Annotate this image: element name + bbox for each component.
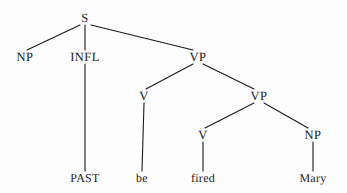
tree-edge-vp1-to-v1: [146, 64, 193, 89]
tree-node-v2: V: [198, 129, 207, 142]
tree-terminal-be: be: [136, 172, 148, 184]
tree-edge-v1-to-be: [142, 103, 144, 171]
tree-edge-vp1-to-vp2: [203, 64, 254, 89]
tree-terminal-mary: Mary: [299, 172, 326, 184]
syntax-tree-diagram: SNPINFLVPVVPVNPPASTbefiredMary: [0, 0, 347, 193]
tree-node-s: S: [81, 12, 88, 25]
tree-edge-s-to-np1: [27, 25, 80, 50]
tree-edge-s-to-vp1: [91, 25, 193, 50]
tree-edge-vp2-to-v2: [205, 103, 254, 128]
tree-terminal-fired: fired: [191, 172, 215, 184]
tree-terminal-past: PAST: [70, 172, 99, 184]
tree-node-infl: INFL: [70, 51, 99, 64]
tree-node-v1: V: [139, 90, 148, 103]
tree-node-vp2: VP: [251, 90, 268, 103]
tree-node-np2: NP: [305, 129, 322, 142]
tree-edge-layer: [0, 0, 347, 193]
tree-node-np1: NP: [17, 51, 34, 64]
tree-edge-vp2-to-np2: [264, 103, 308, 128]
tree-node-vp1: VP: [190, 51, 207, 64]
